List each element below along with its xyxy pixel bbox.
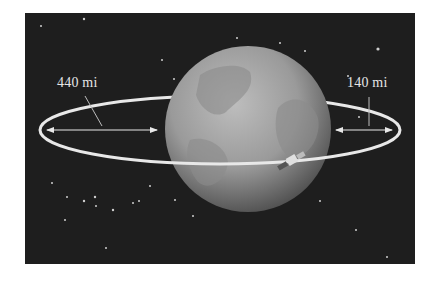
orbit-diagram xyxy=(0,0,437,285)
apogee-leader-line xyxy=(85,96,102,126)
apogee-distance-label: 440 mi xyxy=(57,75,97,91)
perigee-distance-label: 140 mi xyxy=(347,75,387,91)
